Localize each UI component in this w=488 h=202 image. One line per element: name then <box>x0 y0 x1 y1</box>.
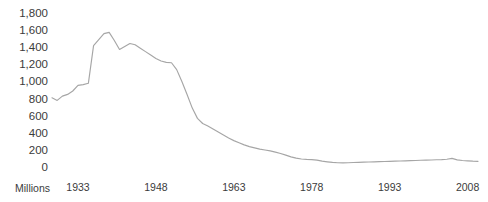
line-chart: 1,8001,6001,4001,2001,0008006004002000 M… <box>0 0 488 202</box>
y-axis-tick-label: 1,000 <box>0 76 48 88</box>
x-axis-tick-label: 2008 <box>456 181 479 193</box>
y-axis-tick-label: 1,400 <box>0 42 48 54</box>
x-axis-tick-label: 1993 <box>378 181 401 193</box>
y-axis-tick-label: 1,600 <box>0 25 48 37</box>
x-axis-tick-label: 1933 <box>66 181 89 193</box>
plot-area <box>0 0 488 202</box>
y-axis-tick-label: 200 <box>0 145 48 157</box>
y-axis-tick-label: 1,800 <box>0 8 48 20</box>
data-series-line <box>52 32 478 162</box>
y-axis-tick-label: 0 <box>0 162 48 174</box>
x-axis: 193319481963197819932008 <box>0 181 488 201</box>
y-axis-tick-label: 1,200 <box>0 59 48 71</box>
y-axis-tick-label: 800 <box>0 94 48 106</box>
y-axis-tick-label: 400 <box>0 128 48 140</box>
x-axis-tick-label: 1978 <box>300 181 323 193</box>
x-axis-tick-label: 1948 <box>144 181 167 193</box>
x-axis-tick-label: 1963 <box>222 181 245 193</box>
y-axis-tick-label: 600 <box>0 111 48 123</box>
y-axis: 1,8001,6001,4001,2001,0008006004002000 <box>0 0 48 180</box>
